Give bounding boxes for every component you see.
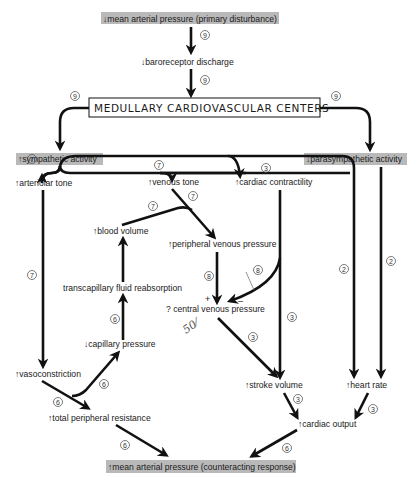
svg-text:9: 9 [334,93,338,100]
node-vasoconstriction: ↑vasoconstriction [15,369,81,379]
arrow-blood-volume-to-pvp [122,207,192,225]
svg-text:6: 6 [102,381,106,388]
svg-text:8: 8 [256,267,260,274]
ref-tpr-to-map: 6 [121,441,130,450]
ref-medullary-to-parasympathetic: 9 [332,92,341,101]
svg-text:7: 7 [151,203,155,210]
ref-symp-to-contractility: 3 [262,164,271,173]
svg-text:3: 3 [264,165,268,172]
svg-text:6: 6 [113,316,117,323]
ref-baro-to-medullary: 9 [201,76,210,85]
svg-text:7: 7 [157,162,161,169]
arrow-stroke-volume-to-cardiac-output [284,393,297,417]
node-stroke-volume: ↑stroke volume [245,380,303,390]
line-sympathetic-to-hr-loop [150,156,354,376]
svg-text:6: 6 [56,399,60,406]
svg-text:2: 2 [389,258,393,265]
node-peripheral-venous-pressure: ↑peripheral venous pressure [168,239,277,249]
ref-pvp-to-cvp: 8 [205,272,214,281]
svg-text:6: 6 [123,442,127,449]
ref-sv-to-co: 3 [294,395,303,404]
node-heart-rate: ↑heart rate [346,380,387,390]
ref-symp-to-hr: 2 [340,265,349,274]
node-medullary-centers: MEDULLARY CARDIOVASCULAR CENTERS [94,102,329,114]
arrow-medullary-to-sympathetic [60,108,89,148]
svg-text:7: 7 [191,193,195,200]
ref-arteriolar-to-vasoconstriction: 7 [28,271,37,280]
ref-capillary-to-transcapillary: 6 [111,315,120,324]
node-transcapillary-reabsorption: transcapillary fluid reabsorption [63,283,182,293]
ref-parasymp-to-hr: 2 [387,257,396,266]
svg-text:9: 9 [203,77,207,84]
svg-text:3: 3 [296,396,300,403]
node-central-venous-pressure: ? central venous pressure [166,304,265,314]
svg-text:3: 3 [371,406,375,413]
svg-text:3: 3 [290,314,294,321]
node-cardiac-contractility: ↑cardiac contractility [235,177,313,187]
node-baroreceptor-discharge: ↓baroreceptor discharge [141,57,234,67]
ref-blood-volume-to-pvp: 7 [149,202,158,211]
node-total-peripheral-resistance: ↑total peripheral resistance [48,413,151,423]
ref-vasoconstriction-to-tpr: 6 [54,398,63,407]
arrow-heart-rate-to-cardiac-output [356,393,368,417]
handwritten-annotation: 50⁄ [180,315,203,337]
svg-text:6: 6 [285,445,289,452]
arrow-tpr-to-map [116,425,166,455]
sign-plus: + [205,294,210,304]
ref-contractility-to-sv: 3 [288,313,297,322]
medullary-centers-box: MEDULLARY CARDIOVASCULAR CENTERS [89,98,329,117]
baroreflex-diagram: ↓mean arterial pressure (primary disturb… [0,0,415,484]
ref-co-to-map: 6 [283,444,292,453]
svg-text:2: 2 [342,266,346,273]
ref-contractility-to-cvp: 8 [254,266,263,275]
ref-symp-to-venous: 7 [155,161,164,170]
arrow-cardiac-output-to-map [252,430,297,456]
ref-venous-to-pvp: 7 [189,192,198,201]
ref-map-to-baro: 9 [201,31,210,40]
handwritten-slash-mark [246,272,254,290]
node-venous-tone: ↑venous tone [148,177,199,187]
svg-text:9: 9 [203,32,207,39]
ref-vasoconstriction-to-capillary: 6 [100,380,109,389]
sign-minus: – [238,296,243,306]
svg-text:3: 3 [251,334,255,341]
ref-cvp-to-sv: 3 [249,333,258,342]
svg-text:9: 9 [73,93,77,100]
svg-text:7: 7 [30,272,34,279]
arrow-medullary-to-parasympathetic [320,108,370,149]
node-map-counter: ↑mean arterial pressure (counteracting r… [108,462,296,472]
svg-text:8: 8 [207,273,211,280]
ref-medullary-to-sympathetic: 9 [71,92,80,101]
arrow-contractility-to-cvp [230,258,280,301]
node-map-primary: ↓mean arterial pressure (primary disturb… [103,14,277,24]
arrow-cvp-to-stroke-volume [218,318,276,376]
ref-hr-to-co: 3 [369,405,378,414]
node-cardiac-output: ↑cardiac output [298,419,357,429]
node-blood-volume: ↑blood volume [93,226,149,236]
svg-text:7: 7 [30,156,34,163]
node-capillary-pressure: ↓capillary pressure [84,339,156,349]
